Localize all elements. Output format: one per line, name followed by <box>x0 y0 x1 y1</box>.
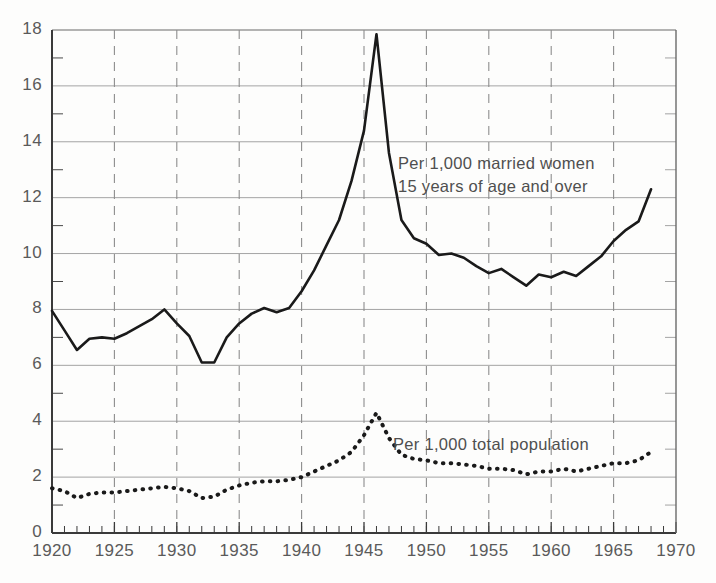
x-tick-label-1960: 1960 <box>521 541 581 561</box>
x-tick-label-1935: 1935 <box>209 541 269 561</box>
chart-plot <box>0 0 716 583</box>
x-tick-label-1945: 1945 <box>334 541 394 561</box>
x-tick-label-1925: 1925 <box>84 541 144 561</box>
y-tick-label-14: 14 <box>6 131 42 151</box>
vertical-dashed-gridlines <box>114 30 613 533</box>
y-tick-label-16: 16 <box>6 75 42 95</box>
x-tick-label-1950: 1950 <box>396 541 456 561</box>
x-tick-label-1920: 1920 <box>22 541 82 561</box>
y-tick-label-0: 0 <box>6 522 42 542</box>
series-label-married-women-line1: Per 1,000 married women <box>398 152 595 175</box>
series-label-married-women-line2: 15 years of age and over <box>398 175 595 198</box>
x-tick-label-1965: 1965 <box>584 541 644 561</box>
y-tick-label-12: 12 <box>6 187 42 207</box>
y-tick-label-8: 8 <box>6 298 42 318</box>
chart-container: 024681012141618 192019251930193519401945… <box>0 0 716 583</box>
x-tick-label-1955: 1955 <box>459 541 519 561</box>
axis-frame <box>52 30 676 533</box>
y-tick-label-4: 4 <box>6 410 42 430</box>
series-label-total-population-line1: Per 1,000 total population <box>393 433 589 456</box>
y-tick-label-2: 2 <box>6 466 42 486</box>
x-tick-label-1970: 1970 <box>646 541 706 561</box>
data-series-lines <box>52 34 651 498</box>
x-tick-label-1930: 1930 <box>147 541 207 561</box>
y-tick-label-6: 6 <box>6 354 42 374</box>
y-tick-label-10: 10 <box>6 243 42 263</box>
series-label-married-women: Per 1,000 married women 15 years of age … <box>398 152 595 198</box>
series-line-0 <box>52 34 651 362</box>
y-tick-label-18: 18 <box>6 19 42 39</box>
x-tick-label-1940: 1940 <box>272 541 332 561</box>
series-label-total-population: Per 1,000 total population <box>393 433 589 456</box>
